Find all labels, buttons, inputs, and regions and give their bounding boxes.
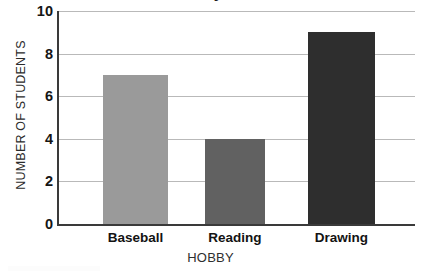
x-tick-drawing: Drawing: [278, 230, 405, 245]
y-axis-spine: [57, 11, 59, 226]
x-axis-title: HOBBY: [0, 250, 421, 265]
bar-chart-figure: Favorite Hobby of Students NUMBER OF STU…: [0, 0, 421, 275]
y-tick-6: 6: [7, 88, 53, 104]
x-tick-reading: Reading: [175, 230, 295, 245]
y-tick-10: 10: [7, 3, 53, 19]
scan-artifact: [8, 266, 100, 271]
bar-drawing: [308, 32, 375, 224]
y-tick-8: 8: [7, 46, 53, 62]
y-tick-2: 2: [7, 173, 53, 189]
y-tick-4: 4: [7, 131, 53, 147]
bar-reading: [205, 139, 265, 224]
y-tick-0: 0: [7, 216, 53, 232]
bar-baseball: [103, 75, 168, 224]
chart-title: Favorite Hobby of Students: [0, 0, 421, 3]
x-axis-spine: [57, 224, 415, 226]
gridline: [57, 11, 415, 12]
plot-area: [57, 11, 415, 226]
